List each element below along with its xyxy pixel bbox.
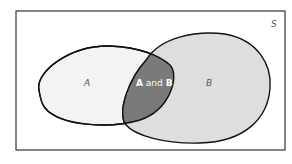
intersection-label: A and B <box>136 78 173 88</box>
set-a-label: A <box>83 78 90 88</box>
universe-label: S <box>271 19 277 29</box>
set-b-label: B <box>206 78 212 88</box>
venn-diagram: S A B A and B <box>0 0 292 164</box>
